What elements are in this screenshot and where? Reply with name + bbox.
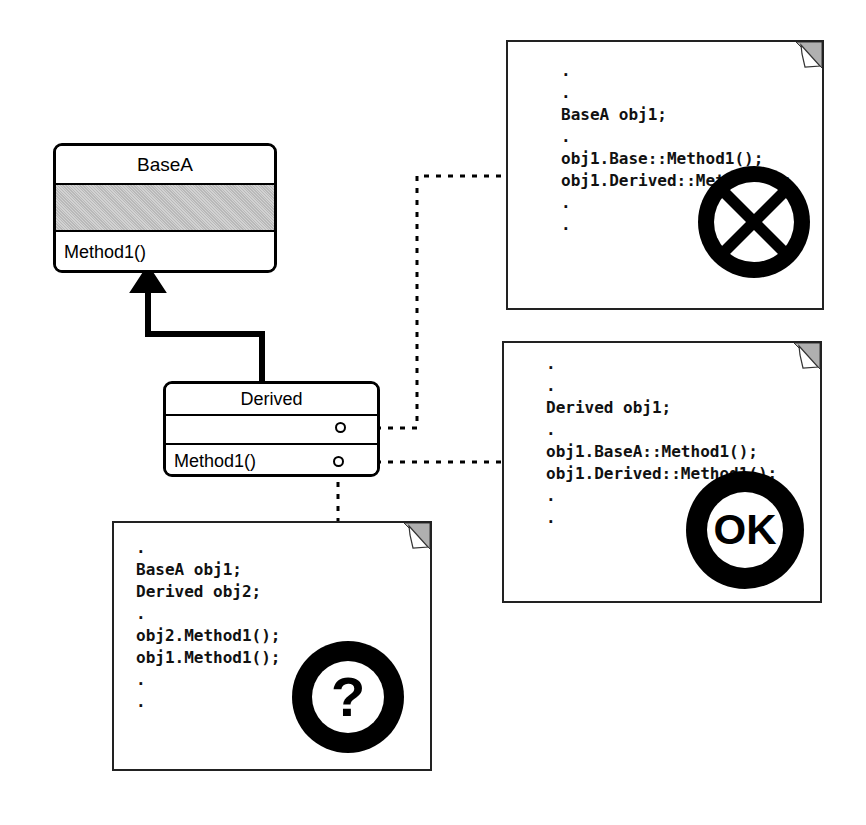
note-question-fold-icon [404,523,430,549]
question-mark-icon: ? [292,641,404,753]
question-mark-label: ? [308,667,388,727]
uml-class-basea[interactable]: BaseA Method1() [53,143,277,273]
uml-class-derived-name: Derived [166,384,377,416]
anchor-dot-attributes[interactable] [335,422,346,433]
uml-class-derived-attributes [166,416,377,445]
note-ok[interactable]: . . Derived obj1; . obj1.BaseA::Method1(… [502,341,822,603]
note-error-fold-icon [796,42,822,68]
ok-mark-label: OK [701,506,789,554]
note-question-code: . BaseA obj1; Derived obj2; . obj2.Metho… [136,537,281,713]
diagram-canvas: BaseA Method1() Derived Method1() . . Ba… [0,0,866,825]
note-ok-fold-icon [794,343,820,369]
generalization-line [148,288,262,381]
uml-class-derived-operations: Method1() [166,445,377,476]
note-error[interactable]: . . BaseA obj1; . obj1.Base::Method1(); … [506,40,824,310]
uml-class-derived[interactable]: Derived Method1() [163,381,380,477]
anchor-dot-method1[interactable] [333,456,344,467]
note-question[interactable]: . BaseA obj1; Derived obj2; . obj2.Metho… [112,521,432,771]
uml-class-basea-attributes [56,185,274,232]
x-mark-icon [698,166,810,278]
uml-class-basea-operations: Method1() [56,232,274,272]
generalization-connector [131,266,262,381]
ok-mark-icon: OK [686,471,804,589]
uml-class-basea-operation-method1: Method1() [56,243,146,261]
uml-class-basea-name: BaseA [56,146,274,185]
uml-class-derived-operation-method1: Method1() [166,452,256,470]
